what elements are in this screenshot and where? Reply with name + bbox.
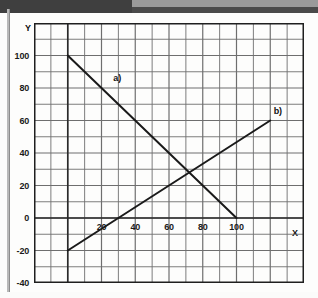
x-tick-label: 100 — [225, 222, 249, 232]
plot-area — [34, 23, 304, 283]
y-tick-label: -40 — [3, 278, 29, 288]
x-tick-label: 20 — [90, 222, 114, 232]
y-tick-label: 60 — [3, 116, 29, 126]
x-tick-label: 60 — [157, 222, 181, 232]
x-tick-label: 40 — [123, 222, 147, 232]
y-tick-label: -20 — [3, 246, 29, 256]
scan-artifact-band-dark — [0, 0, 132, 13]
y-tick-label: 80 — [3, 83, 29, 93]
curve-label-2: b) — [274, 106, 283, 116]
page-bottom-edge — [0, 292, 318, 298]
y-tick-label: 100 — [3, 51, 29, 61]
y-axis-title: Y — [25, 23, 31, 33]
scanned-page: Y X 100806040200-20-4020406080100 a)b) — [0, 0, 318, 298]
chart-canvas — [34, 23, 304, 283]
x-tick-label: 80 — [191, 222, 215, 232]
y-tick-label: 40 — [3, 148, 29, 158]
scan-artifact-band-light — [130, 0, 318, 7]
curve-label-1: a) — [113, 73, 121, 83]
y-tick-label: 20 — [3, 181, 29, 191]
y-tick-label: 0 — [3, 213, 29, 223]
